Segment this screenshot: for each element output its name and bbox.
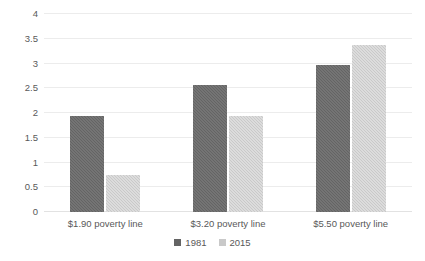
legend-swatch-icon	[219, 239, 226, 246]
x-axis-category-labels: $1.90 poverty line$3.20 poverty line$5.5…	[44, 216, 412, 234]
bar-group	[70, 14, 140, 212]
y-axis-tick-label: 3	[33, 59, 38, 69]
bar[interactable]	[193, 85, 227, 212]
bar-group	[316, 14, 386, 212]
y-axis-tick-label: 2	[33, 108, 38, 118]
bar[interactable]	[229, 116, 263, 212]
legend-label: 1981	[185, 238, 206, 248]
bar[interactable]	[352, 45, 386, 212]
bar-group	[193, 14, 263, 212]
bar-groups	[44, 14, 412, 212]
x-axis-category-label: $5.50 poverty line	[313, 216, 388, 232]
bar[interactable]	[316, 65, 350, 212]
y-axis-tick-label: 4	[33, 9, 38, 19]
y-axis-tick-label: 2.5	[25, 84, 38, 94]
bar[interactable]	[106, 175, 140, 212]
plot-area	[44, 14, 412, 212]
legend-item[interactable]: 1981	[174, 238, 206, 248]
legend-swatch-icon	[174, 239, 181, 246]
legend-label: 2015	[230, 238, 251, 248]
legend-item[interactable]: 2015	[219, 238, 251, 248]
y-axis-tick-label: 0.5	[25, 183, 38, 193]
bar[interactable]	[70, 116, 104, 212]
y-axis-tick-label: 0	[33, 207, 38, 217]
x-axis-category-label: $1.90 poverty line	[68, 216, 143, 232]
bar-chart: 00.511.522.533.54 $1.90 poverty line$3.2…	[0, 0, 425, 261]
y-axis-tick-label: 3.5	[25, 34, 38, 44]
x-axis-category-label: $3.20 poverty line	[191, 216, 266, 232]
y-axis-tick-label: 1	[33, 158, 38, 168]
y-axis-tick-labels: 00.511.522.533.54	[0, 14, 38, 212]
chart-legend: 19812015	[0, 238, 425, 248]
y-axis-tick-label: 1.5	[25, 133, 38, 143]
